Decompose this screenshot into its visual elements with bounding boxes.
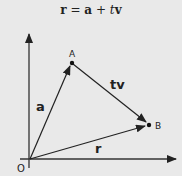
vector-tv-label: tv (110, 77, 125, 92)
point-b-label: B (155, 121, 161, 131)
vector-r-arrow (30, 126, 145, 159)
vector-tv-arrow (73, 64, 146, 122)
vector-r-label: r (95, 141, 102, 156)
point-a-dot (70, 61, 74, 65)
vector-a-label: a (36, 99, 45, 114)
vector-diagram: A B O a tv r (0, 0, 182, 176)
origin-label: O (17, 163, 25, 174)
point-b-dot (147, 123, 151, 127)
point-a-label: A (69, 49, 76, 59)
